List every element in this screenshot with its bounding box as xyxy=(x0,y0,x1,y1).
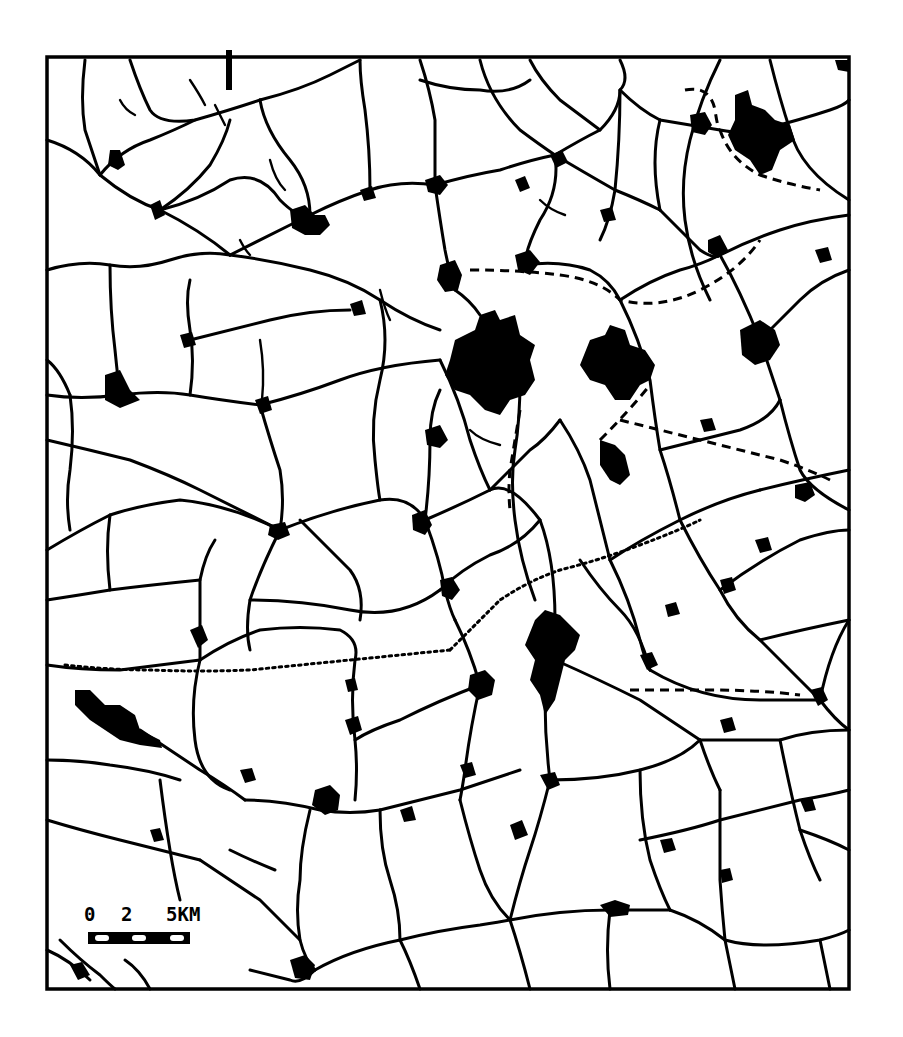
scale-bar-gap-1 xyxy=(95,935,109,941)
scale-label-2: 2 xyxy=(121,903,132,925)
settlements xyxy=(70,60,849,980)
scale-bar-gap-3 xyxy=(170,935,184,941)
scale-label-0: 0 xyxy=(84,903,95,925)
scale-bar: 0 2 5KM xyxy=(84,903,200,944)
scale-label-5km: 5KM xyxy=(166,903,200,925)
north-marker xyxy=(226,50,232,90)
road-network xyxy=(47,60,849,989)
town-south-central xyxy=(525,610,580,715)
map-frame xyxy=(47,57,849,989)
town-northeast xyxy=(728,90,795,175)
map-canvas: 0 2 5KM xyxy=(0,0,903,1037)
town-east-central xyxy=(580,325,655,400)
scale-bar-gap-2 xyxy=(132,935,146,941)
town-west xyxy=(75,690,162,748)
